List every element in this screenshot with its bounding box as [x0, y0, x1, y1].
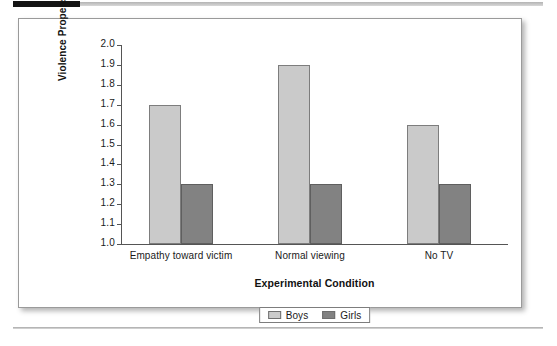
y-axis-tick-label: 1.2	[100, 197, 115, 208]
legend-label-girls: Girls	[340, 310, 361, 321]
x-axis-line	[121, 244, 508, 245]
bar-boys-3	[407, 125, 439, 244]
y-axis-tick-mark	[117, 224, 121, 225]
bar-girls-3	[439, 184, 471, 244]
y-axis-tick-mark	[117, 105, 121, 106]
y-axis-tick-mark	[117, 85, 121, 86]
y-axis-tick-mark	[117, 204, 121, 205]
y-axis-tick-mark	[117, 164, 121, 165]
legend-swatch-girls-icon	[322, 311, 335, 319]
x-axis-category-label: Normal viewing	[275, 250, 345, 261]
y-axis-tick-mark	[117, 244, 121, 245]
y-axis-tick-mark	[117, 45, 121, 46]
y-axis-tick-mark	[117, 65, 121, 66]
plot-area: 2.01.91.81.71.61.51.41.31.21.11.0 Empath…	[121, 45, 508, 270]
top-rule-group	[0, 0, 557, 10]
black-rule-segment	[13, 1, 80, 7]
bar-girls-1	[181, 184, 213, 244]
y-axis-tick-mark	[117, 145, 121, 146]
y-axis-tick-mark	[117, 125, 121, 126]
x-axis-title: Experimental Condition	[121, 277, 508, 289]
bottom-rule	[13, 327, 543, 329]
legend-item-girls: Girls	[322, 310, 361, 321]
x-axis-category-label: No TV	[425, 250, 454, 261]
y-axis-line	[121, 45, 122, 244]
chart-legend: Boys Girls	[259, 307, 371, 323]
y-axis-tick-label: 1.0	[100, 237, 115, 248]
y-axis-tick-label: 1.6	[100, 118, 115, 129]
figure-card: Violence Propensity 2.01.91.81.71.61.51.…	[18, 18, 522, 308]
y-axis-tick-label: 1.1	[100, 217, 115, 228]
legend-swatch-boys-icon	[268, 311, 281, 319]
y-axis-title: Violence Propensity	[57, 0, 68, 81]
y-axis-tick-label: 1.8	[100, 78, 115, 89]
bar-girls-2	[310, 184, 342, 244]
x-axis-category-label: Empathy toward victim	[130, 250, 233, 261]
y-axis-tick-label: 2.0	[100, 38, 115, 49]
legend-item-boys: Boys	[268, 310, 309, 321]
legend-label-boys: Boys	[286, 310, 309, 321]
y-axis-tick-mark	[117, 184, 121, 185]
gray-rule-segment	[80, 2, 543, 6]
y-axis-tick-label: 1.5	[100, 138, 115, 149]
y-axis-tick-label: 1.7	[100, 98, 115, 109]
bar-boys-2	[278, 65, 310, 244]
y-axis-tick-label: 1.4	[100, 157, 115, 168]
y-axis-tick-label: 1.9	[100, 58, 115, 69]
y-axis-tick-label: 1.3	[100, 177, 115, 188]
bar-boys-1	[149, 105, 181, 244]
